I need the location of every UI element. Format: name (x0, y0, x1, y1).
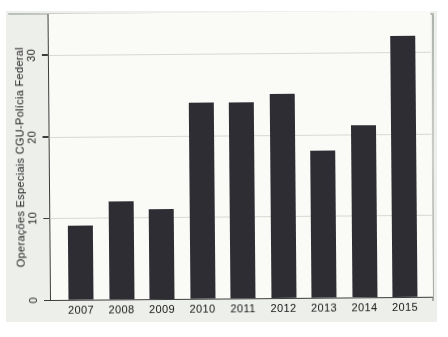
chart-tilt-wrapper: Operações Especiais CGU-Polícia Federal … (6, 11, 437, 322)
bar-2011 (229, 102, 256, 298)
y-tick-mark-10 (43, 218, 49, 220)
y-tick-mark-20 (43, 136, 49, 138)
y-tick-label-10: 10 (26, 212, 38, 225)
scanned-chart-region: Operações Especiais CGU-Polícia Federal … (6, 11, 437, 322)
x-tick-label-2011: 2011 (230, 302, 255, 314)
x-tick-label-2012: 2012 (270, 302, 296, 314)
x-tick-label-2009: 2009 (149, 303, 175, 315)
bar-2012 (269, 94, 296, 298)
y-tick-label-0: 0 (27, 297, 39, 304)
bar-2014 (350, 126, 376, 298)
x-tick-label-2008: 2008 (108, 303, 134, 315)
x-tick-label-2007: 2007 (68, 304, 94, 316)
y-axis-title: Operações Especiais CGU-Polícia Federal (13, 47, 27, 267)
bar-2010 (188, 102, 215, 298)
figure-canvas: Operações Especiais CGU-Polícia Federal … (0, 0, 448, 337)
y-tick-label-20: 20 (26, 130, 38, 143)
bar-2007 (68, 226, 94, 300)
gridline-y-30 (49, 52, 431, 56)
plot-area: Operações Especiais CGU-Polícia Federal … (48, 11, 433, 301)
bar-2015 (390, 35, 417, 297)
bar-2009 (149, 209, 175, 299)
y-tick-mark-30 (42, 54, 48, 56)
y-tick-label-30: 30 (25, 48, 37, 61)
y-tick-mark-0 (44, 300, 50, 302)
x-tick-label-2013: 2013 (311, 301, 337, 313)
x-tick-label-2015: 2015 (392, 301, 418, 313)
bar-2013 (310, 150, 336, 297)
x-tick-label-2014: 2014 (351, 301, 377, 313)
bar-2008 (108, 201, 134, 299)
x-tick-label-2010: 2010 (189, 303, 215, 315)
